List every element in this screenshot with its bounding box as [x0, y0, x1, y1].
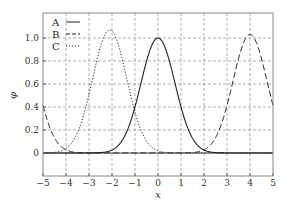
x-tick-label: 4	[247, 178, 253, 188]
y-tick-label: 0.6	[25, 79, 40, 89]
x-tick-label: 3	[224, 178, 230, 188]
x-tick-label: −2	[105, 178, 118, 188]
legend: ABC	[51, 17, 80, 52]
x-tick-label: −4	[59, 178, 73, 188]
y-tick-label: 0.4	[25, 102, 40, 112]
y-tick-label: 1.0	[25, 33, 40, 43]
x-ticks: −5−4−3−2−1012345	[36, 173, 276, 188]
x-tick-label: 2	[201, 178, 207, 188]
chart: −5−4−3−2−1012345 00.20.40.60.81.0 x φ AB…	[0, 0, 292, 206]
y-tick-label: 0.8	[25, 56, 40, 66]
y-tick-label: 0.2	[25, 125, 39, 135]
legend-label-C: C	[52, 41, 60, 52]
x-tick-label: 1	[178, 178, 184, 188]
x-tick-label: −5	[36, 178, 50, 188]
x-tick-label: −3	[82, 178, 96, 188]
x-tick-label: 5	[270, 178, 276, 188]
y-tick-label: 0	[33, 148, 39, 158]
x-axis-label: x	[155, 189, 161, 200]
x-tick-label: −1	[128, 178, 141, 188]
legend-label-B: B	[52, 29, 59, 40]
x-tick-label: 0	[155, 178, 161, 188]
legend-label-A: A	[51, 17, 60, 28]
y-axis-label: φ	[7, 92, 18, 99]
